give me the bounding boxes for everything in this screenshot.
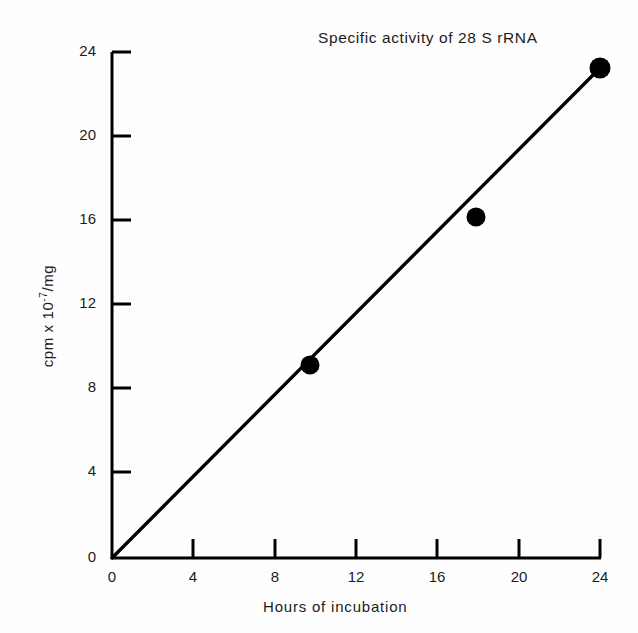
y-tick-label: 24 <box>62 42 96 59</box>
x-tick-label: 8 <box>258 568 292 585</box>
chart-figure: Specific activity of 28 S rRNA cpm x 10-… <box>0 0 638 633</box>
fit-line <box>112 68 600 558</box>
data-point <box>467 208 486 227</box>
x-tick-label: 20 <box>502 568 536 585</box>
x-tick-label: 24 <box>583 568 617 585</box>
y-tick-label: 12 <box>62 294 96 311</box>
y-tick-label: 4 <box>62 462 96 479</box>
data-point <box>301 356 320 375</box>
x-tick-label: 12 <box>339 568 373 585</box>
y-tick-label: 20 <box>62 126 96 143</box>
y-tick-label: 16 <box>62 210 96 227</box>
x-axis-ticks <box>193 539 600 558</box>
x-tick-label: 4 <box>176 568 210 585</box>
y-tick-label: 8 <box>62 378 96 395</box>
data-point <box>590 58 611 79</box>
plot-area <box>0 0 638 633</box>
y-tick-label: 0 <box>62 548 96 565</box>
x-tick-label: 0 <box>95 568 129 585</box>
y-axis-ticks <box>112 52 131 472</box>
x-tick-label: 16 <box>420 568 454 585</box>
